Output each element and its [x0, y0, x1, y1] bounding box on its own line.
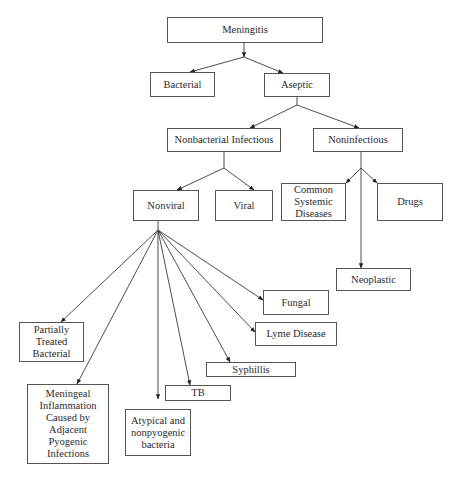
edge-nonviral-partially-treated: [61, 230, 158, 322]
node-nonviral: Nonviral: [133, 190, 199, 221]
node-meningeal-inflammation: Meningeal Inflammation Caused by Adjacen…: [27, 384, 109, 464]
node-partially-treated-bacterial: Partially Treated Bacterial: [19, 322, 84, 362]
node-noninfectious: Noninfectious: [313, 128, 403, 152]
node-nonbacterial-infectious: Nonbacterial Infectious: [167, 128, 281, 152]
edge-meningitis-bacterial: [190, 57, 244, 72]
edge-nonbacterial-viral: [224, 168, 254, 190]
edge-noninfectious-common-systemic: [346, 168, 361, 183]
edge-nonviral-lyme: [158, 230, 255, 332]
edge-nonviral-syphillis: [158, 230, 230, 362]
edge-noninfectious-drugs: [361, 168, 377, 183]
node-drugs: Drugs: [377, 183, 443, 221]
node-common-systemic-diseases: Common Systemic Diseases: [281, 183, 346, 221]
edge-nonviral-tb: [158, 230, 190, 385]
node-meningitis: Meningitis: [167, 17, 323, 43]
edge-nonbacterial-nonviral: [177, 168, 224, 190]
edge-aseptic-nonbacterial: [250, 105, 297, 128]
node-viral: Viral: [215, 190, 273, 221]
node-tb: TB: [165, 385, 231, 401]
node-atypical-nonpyogenic-bacteria: Atypical and nonpyogenic bacteria: [125, 409, 191, 456]
node-neoplastic: Neoplastic: [336, 268, 411, 291]
node-syphillis: Syphillis: [206, 362, 296, 377]
edge-aseptic-noninfectious: [297, 105, 359, 128]
node-bacterial: Bacterial: [150, 72, 215, 97]
node-fungal: Fungal: [263, 290, 329, 315]
edge-meningitis-aseptic: [244, 57, 283, 73]
node-aseptic: Aseptic: [264, 73, 330, 97]
edge-nonviral-fungal: [158, 230, 263, 300]
edge-nonviral-meningeal: [77, 230, 158, 384]
node-lyme-disease: Lyme Disease: [255, 322, 337, 346]
meningitis-classification-diagram: Meningitis Bacterial Aseptic Nonbacteria…: [0, 0, 462, 477]
